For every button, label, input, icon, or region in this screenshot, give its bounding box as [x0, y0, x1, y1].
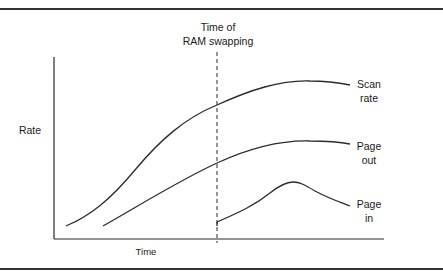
scan-rate-label-line2: rate [360, 92, 378, 104]
rate-over-time-diagram: Time of RAM swapping Rate Time Scan rate… [0, 0, 443, 277]
scan-rate-curve [66, 81, 350, 226]
page-out-label-line1: Page [357, 140, 382, 152]
x-axis-label: Time [136, 246, 157, 257]
page-in-label-line1: Page [357, 198, 382, 210]
scan-rate-label-line1: Scan [357, 78, 381, 90]
page-in-curve [217, 182, 350, 222]
page-in-label-line2: in [365, 212, 373, 224]
page-out-curve [103, 141, 350, 226]
annotation-line1: Time of [201, 21, 236, 33]
y-axis-label: Rate [19, 124, 41, 136]
annotation-line2: RAM swapping [183, 35, 254, 47]
page-out-label-line2: out [362, 154, 377, 166]
